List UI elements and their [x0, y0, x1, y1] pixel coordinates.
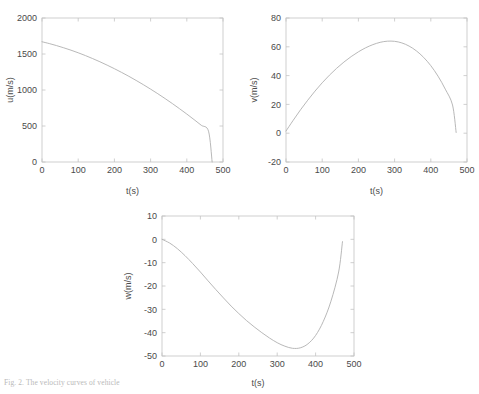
x-tick-label: 0 — [39, 165, 44, 175]
x-axis-label: t(s) — [370, 186, 383, 196]
y-tick-label: -20 — [144, 281, 157, 291]
figure-velocity-curves: 01002003004005000500100015002000t(s)u(m/… — [0, 0, 479, 394]
y-tick-label: 0 — [32, 157, 37, 167]
y-axis-label: v(m/s) — [249, 78, 259, 103]
y-tick-label: -20 — [268, 157, 281, 167]
plot-w: 0100200300400500-50-40-30-20-10010t(s)w(… — [118, 202, 368, 388]
x-tick-label: 500 — [459, 165, 474, 175]
subplot-v-velocity: 0100200300400500-20020406080t(s)v(m/s) — [244, 4, 479, 196]
y-tick-label: 1500 — [17, 49, 37, 59]
x-tick-label: 300 — [387, 165, 402, 175]
y-tick-label: 1000 — [17, 85, 37, 95]
plot-frame — [42, 18, 223, 162]
x-axis-label: t(s) — [252, 378, 265, 388]
plot-frame — [162, 216, 354, 356]
x-tick-label: 0 — [159, 359, 164, 369]
y-tick-label: 0 — [152, 235, 157, 245]
y-tick-label: -50 — [144, 351, 157, 361]
subplot-w-velocity: 0100200300400500-50-40-30-20-10010t(s)w(… — [118, 202, 368, 388]
x-tick-label: 100 — [315, 165, 330, 175]
x-tick-label: 500 — [215, 165, 230, 175]
y-tick-label: -30 — [144, 305, 157, 315]
y-tick-label: 20 — [271, 100, 281, 110]
y-tick-label: 60 — [271, 42, 281, 52]
x-tick-label: 200 — [231, 359, 246, 369]
data-curve-w — [162, 239, 342, 348]
x-tick-label: 300 — [270, 359, 285, 369]
plot-frame — [286, 18, 467, 162]
y-tick-label: 80 — [271, 13, 281, 23]
x-tick-label: 400 — [308, 359, 323, 369]
plot-v: 0100200300400500-20020406080t(s)v(m/s) — [244, 4, 479, 196]
plot-u: 01002003004005000500100015002000t(s)u(m/… — [0, 4, 235, 196]
x-tick-label: 100 — [71, 165, 86, 175]
x-tick-label: 200 — [107, 165, 122, 175]
x-tick-label: 200 — [351, 165, 366, 175]
y-axis-label: w(m/s) — [123, 273, 133, 301]
data-curve-v — [286, 41, 456, 132]
y-tick-label: 10 — [147, 211, 157, 221]
y-tick-label: 40 — [271, 71, 281, 81]
data-curve-u — [42, 42, 212, 162]
x-tick-label: 400 — [423, 165, 438, 175]
x-tick-label: 0 — [283, 165, 288, 175]
y-tick-label: 0 — [276, 128, 281, 138]
y-tick-label: 500 — [22, 121, 37, 131]
y-axis-label: u(m/s) — [5, 77, 15, 103]
y-tick-label: -10 — [144, 258, 157, 268]
x-axis-label: t(s) — [126, 186, 139, 196]
y-tick-label: -40 — [144, 328, 157, 338]
x-tick-label: 100 — [193, 359, 208, 369]
y-tick-label: 2000 — [17, 13, 37, 23]
x-tick-label: 500 — [346, 359, 361, 369]
x-tick-label: 400 — [179, 165, 194, 175]
x-tick-label: 300 — [143, 165, 158, 175]
figure-caption: Fig. 2. The velocity curves of vehicle — [4, 378, 120, 387]
subplot-u-velocity: 01002003004005000500100015002000t(s)u(m/… — [0, 4, 235, 196]
